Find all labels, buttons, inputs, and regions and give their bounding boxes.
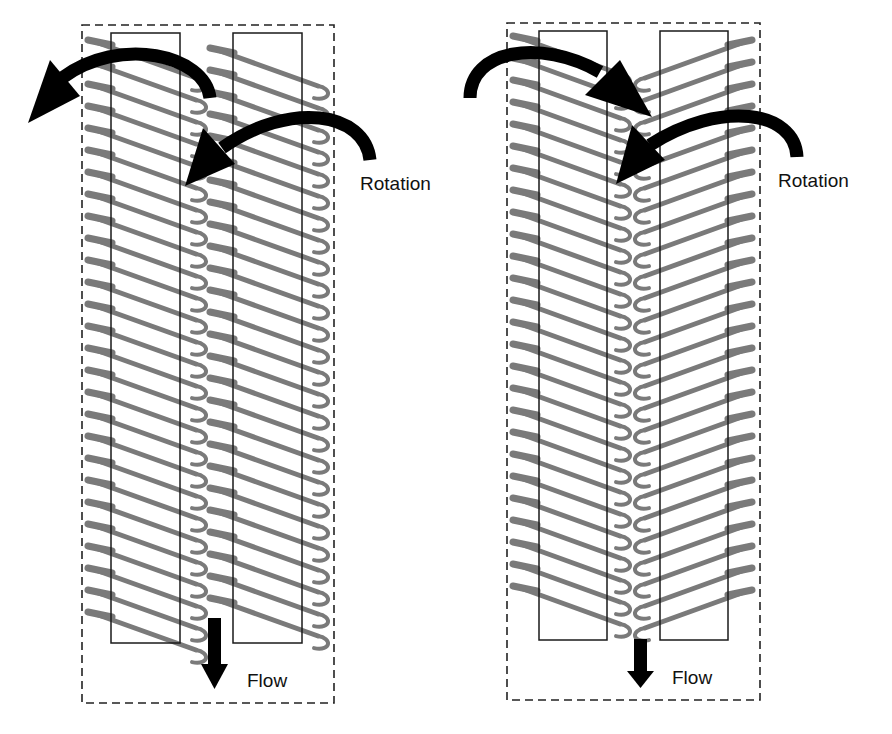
right-panel: [470, 23, 797, 700]
left-flow-label: Flow: [247, 670, 287, 692]
right-flow-label: Flow: [672, 667, 712, 689]
left-rotation-label: Rotation: [360, 173, 431, 195]
left-panel: [28, 25, 370, 703]
curved-arrow-icon: [185, 117, 370, 186]
twin-screw-diagram: [0, 0, 892, 734]
left-screw-flights: [88, 40, 328, 663]
curved-arrow-icon: [28, 54, 210, 123]
curved-arrow-icon: [616, 116, 797, 184]
arrow-down-icon: [627, 639, 654, 688]
right-rotation-label: Rotation: [778, 170, 849, 192]
curved-arrow-icon: [470, 53, 652, 117]
